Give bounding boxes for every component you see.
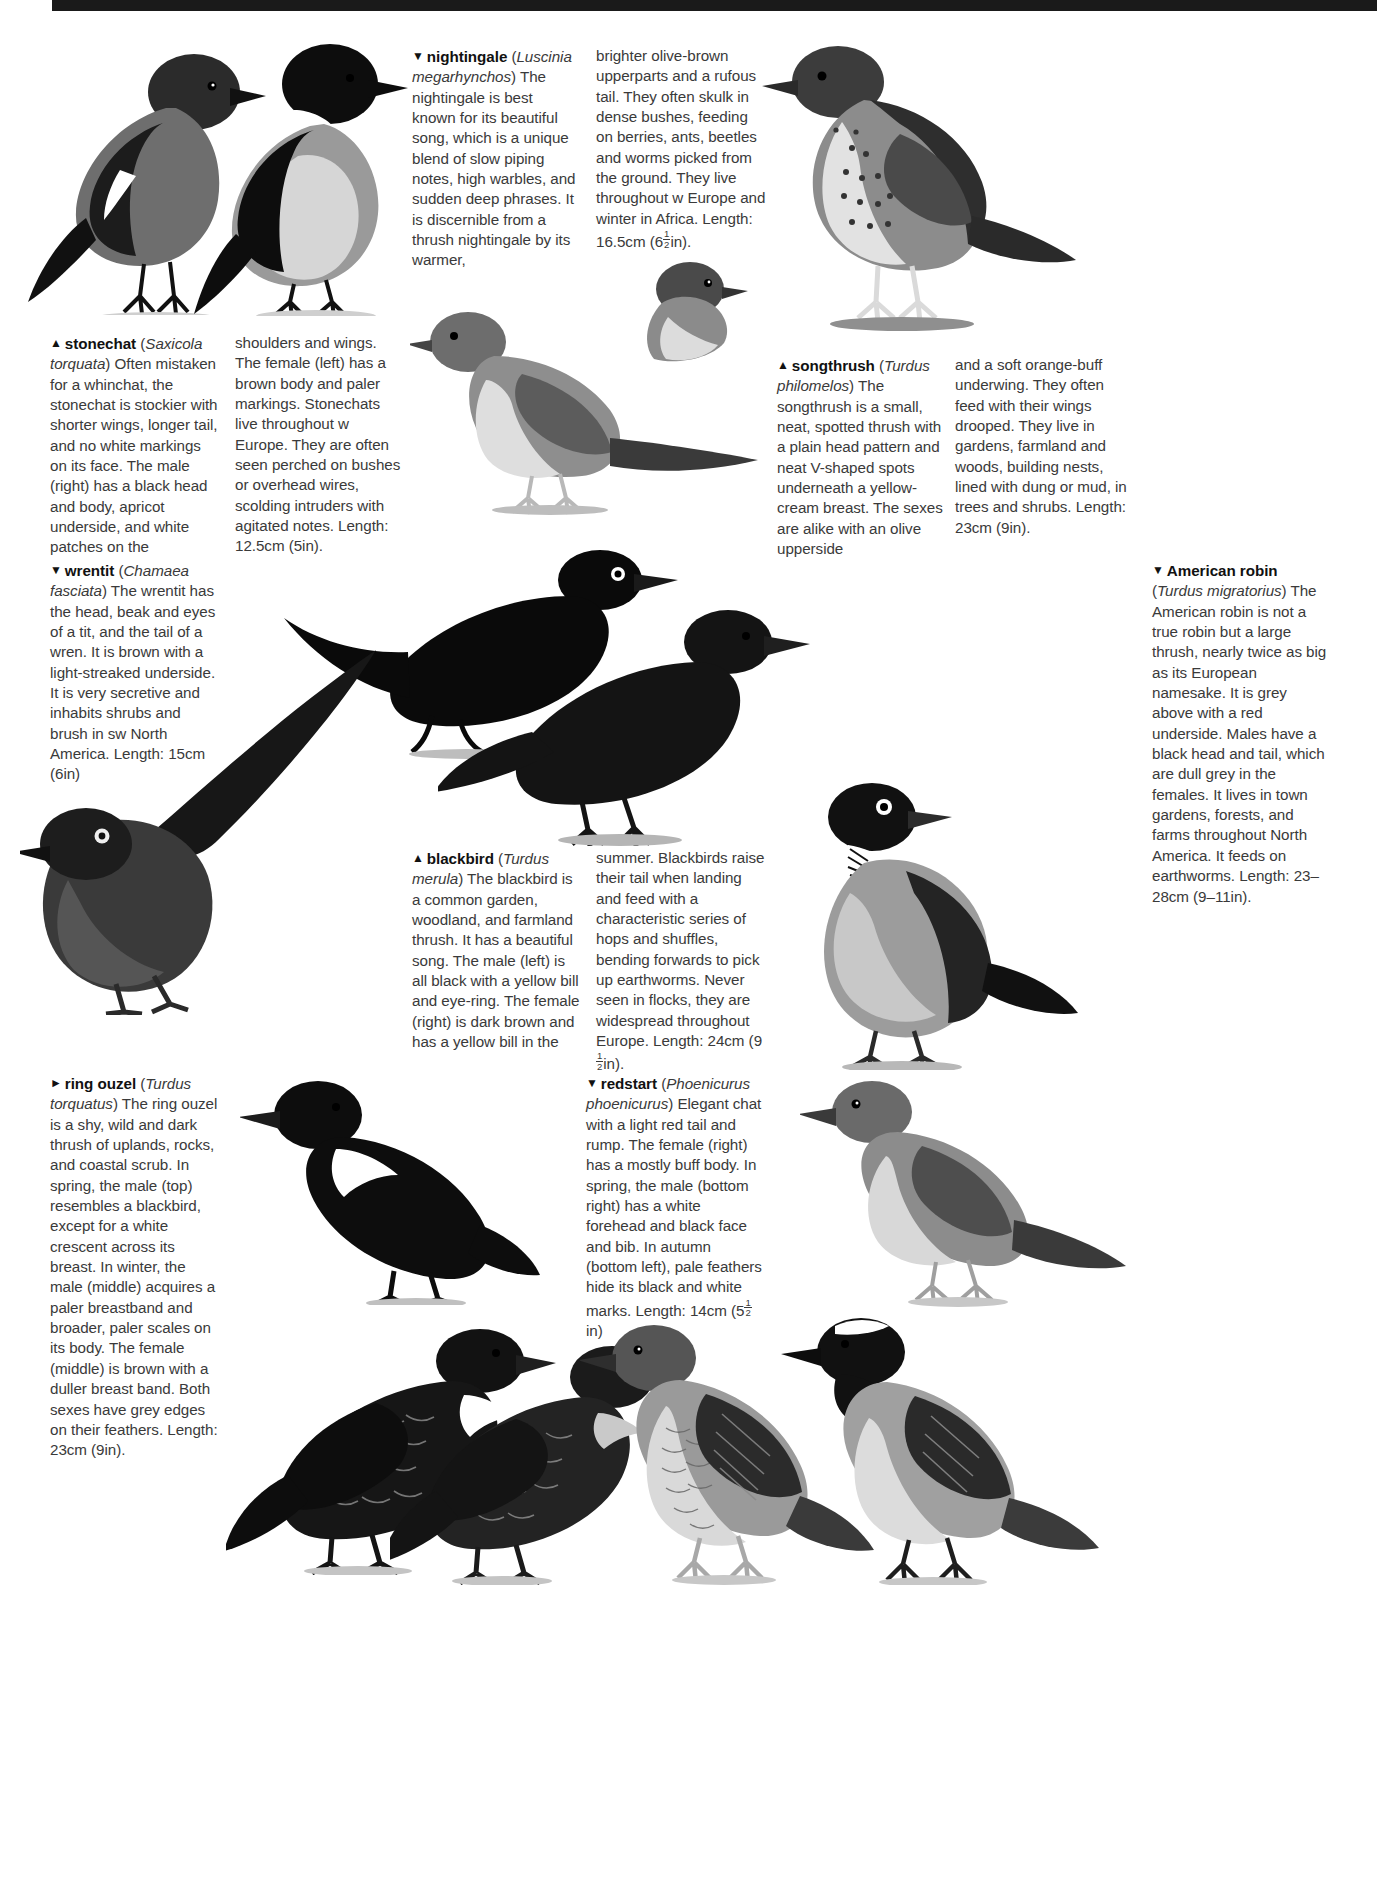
- illustration-songthrush: [760, 26, 1080, 331]
- entry-stonechat-col1: ▲stonechat (Saxicola torquata) Often mis…: [50, 333, 218, 558]
- illustration-redstart-male: [775, 1300, 1105, 1585]
- entry-body-songthrush-col2: and a soft orange-buff underwing. They o…: [955, 356, 1127, 536]
- entry-name-nightingale: nightingale: [427, 48, 507, 65]
- entry-name-american-robin: American robin: [1167, 562, 1278, 579]
- entry-american-robin: ▼American robin (Turdus migratorius) The…: [1152, 560, 1330, 907]
- entry-blackbird-col1: ▲blackbird (Turdus merula) The blackbird…: [412, 848, 580, 1052]
- entry-name-stonechat: stonechat: [65, 335, 136, 352]
- entry-stonechat-col2: shoulders and wings. The female (left) h…: [235, 333, 403, 557]
- entry-body-redstart: Elegant chat with a light red tail and r…: [586, 1095, 762, 1318]
- entry-name-blackbird: blackbird: [427, 850, 494, 867]
- entry-length-redstart-suffix: in): [586, 1322, 603, 1339]
- entry-body-nightingale-col1: The nightingale is best known for its be…: [412, 68, 575, 268]
- entry-body-american-robin: The American robin is not a true robin b…: [1152, 582, 1326, 904]
- triangle-up-icon: ▲: [412, 848, 424, 868]
- entry-name-wrentit: wrentit: [65, 562, 114, 579]
- entry-body-blackbird-col1: The blackbird is a common garden, woodla…: [412, 870, 579, 1050]
- entry-songthrush-col2: and a soft orange-buff underwing. They o…: [955, 355, 1127, 538]
- entry-body-stonechat-col1: Often mistaken for a whinchat, the stone…: [50, 355, 218, 555]
- fraction-half: 12: [596, 1051, 603, 1071]
- illustration-blackbird-female: [438, 606, 818, 846]
- triangle-up-icon: ▲: [50, 333, 62, 353]
- header-band: [52, 0, 1377, 11]
- illustration-ring-ouzel-male-spring: [240, 1075, 540, 1305]
- triangle-down-icon: ▼: [412, 46, 424, 66]
- entry-body-nightingale-col2: brighter olive-brown upperparts and a ru…: [596, 47, 765, 227]
- triangle-down-icon: ▼: [586, 1073, 598, 1093]
- entry-redstart: ▼redstart (Phoenicurus phoenicurus) Eleg…: [586, 1073, 762, 1341]
- entry-name-songthrush: songthrush: [792, 357, 875, 374]
- entry-latin-american-robin: Turdus migratorius: [1157, 582, 1282, 599]
- entry-body-blackbird-col2: summer. Blackbirds raise their tail when…: [596, 849, 764, 1049]
- illustration-american-robin: [810, 775, 1080, 1070]
- entry-body-wrentit: The wrentit has the head, beak and eyes …: [50, 582, 215, 782]
- triangle-right-icon: ►: [50, 1073, 62, 1093]
- illustration-nightingale-small: [632, 255, 752, 365]
- triangle-down-icon: ▼: [50, 560, 62, 580]
- entry-ring-ouzel: ►ring ouzel (Turdus torquatus) The ring …: [50, 1073, 222, 1461]
- page-header-bar: [0, 0, 1377, 14]
- entry-songthrush-col1: ▲songthrush (Turdus philomelos) The song…: [777, 355, 947, 559]
- entry-blackbird-col2: summer. Blackbirds raise their tail when…: [596, 848, 768, 1074]
- entry-body-ring-ouzel: The ring ouzel is a shy, wild and dark t…: [50, 1095, 218, 1458]
- fraction-half: 12: [744, 1298, 751, 1318]
- entry-name-redstart: redstart: [601, 1075, 657, 1092]
- entry-nightingale-col2: brighter olive-brown upperparts and a ru…: [596, 46, 766, 252]
- illustration-stonechat-male: [190, 26, 430, 316]
- illustration-redstart-female: [800, 1070, 1130, 1310]
- entry-body-stonechat-col2: shoulders and wings. The female (left) h…: [235, 334, 400, 554]
- fraction-half: 12: [663, 229, 670, 249]
- triangle-down-icon: ▼: [1152, 560, 1164, 580]
- triangle-up-icon: ▲: [777, 355, 789, 375]
- entry-nightingale-col1: ▼nightingale (Luscinia megarhynchos) The…: [412, 46, 578, 271]
- entry-name-ring-ouzel: ring ouzel: [65, 1075, 136, 1092]
- entry-wrentit: ▼wrentit (Chamaea fasciata) The wrentit …: [50, 560, 222, 785]
- entry-body-songthrush-col1: The songthrush is a small, neat, spotted…: [777, 377, 943, 557]
